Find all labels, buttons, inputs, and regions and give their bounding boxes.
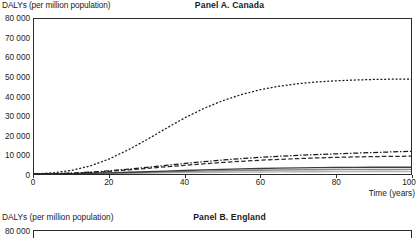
panel-b-plot-area: [33, 230, 412, 238]
figure-dalys-panels: DALYs (per million population) Panel A. …: [0, 0, 419, 238]
panel-a-y-ticks: 80 000 70 000 60 000 50 000 40 000 30 00…: [0, 0, 30, 200]
series-line-series-1: [34, 79, 411, 174]
x-tick-label: 0: [31, 178, 36, 187]
y-tick-label: 0: [25, 171, 30, 180]
y-tick-label: 20 000: [5, 131, 30, 140]
panel-a-series-canvas: [34, 19, 411, 174]
panel-a-canada: DALYs (per million population) Panel A. …: [0, 0, 419, 200]
y-tick-label: 60 000: [5, 53, 30, 62]
x-tick-label: 40: [180, 178, 189, 187]
panel-a-x-axis-label: Time (years): [369, 188, 415, 198]
y-tick-label: 40 000: [5, 92, 30, 101]
y-tick-label: 70 000: [5, 33, 30, 42]
y-tick-label: 50 000: [5, 72, 30, 81]
y-tick-label: 30 000: [5, 112, 30, 121]
x-tick-label: 60: [256, 178, 265, 187]
panel-b-england: DALYs (per million population) Panel B. …: [0, 200, 419, 238]
panel-a-title: Panel A. Canada: [0, 0, 419, 10]
x-tick-label: 80: [332, 178, 341, 187]
panel-a-plot-area: [33, 18, 412, 175]
y-tick-label: 10 000: [5, 151, 30, 160]
panel-b-y-top-tick: 80 000: [0, 227, 30, 236]
panel-b-title: Panel B. England: [0, 212, 419, 222]
x-tick-label: 20: [104, 178, 113, 187]
y-tick-label: 80 000: [5, 14, 30, 23]
x-tick-label: 100: [402, 178, 416, 187]
